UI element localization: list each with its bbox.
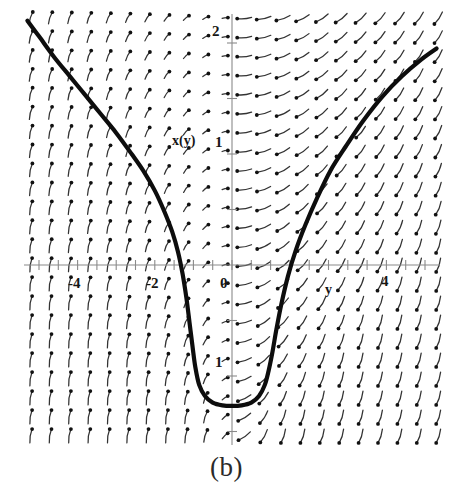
field-arrow-tail-dot [433, 79, 437, 83]
field-arrow-tail-dot [375, 193, 379, 197]
field-arrow-tail-dot [207, 34, 211, 38]
field-arrow-tail-dot [89, 162, 93, 166]
field-arrow-tail-dot [128, 295, 132, 299]
field-arrow [258, 318, 270, 326]
field-arrow-tail-dot [275, 76, 279, 80]
field-arrow [356, 145, 365, 157]
field-arrow [49, 372, 51, 386]
field-arrow [49, 353, 51, 367]
field-arrow [107, 429, 109, 443]
field-arrow-tail-dot [396, 441, 400, 445]
field-arrow-tail-dot [166, 389, 170, 393]
field-arrow [397, 353, 401, 367]
field-arrow [49, 277, 51, 291]
field-arrow [416, 220, 421, 233]
field-arrow-tail-dot [318, 384, 322, 388]
field-arrow-tail-dot [147, 314, 151, 318]
field-arrow-tail-dot [374, 60, 378, 64]
field-arrow [68, 145, 71, 157]
field-arrow-tail-dot [167, 145, 171, 149]
field-arrow-tail-dot [108, 219, 112, 223]
field-arrow-tail-dot [50, 200, 54, 204]
field-arrow [339, 334, 344, 348]
field-arrow-tail-dot [50, 162, 54, 166]
field-arrow-tail-dot [50, 427, 54, 431]
field-arrow [49, 429, 51, 443]
field-arrow-tail-dot [374, 155, 378, 159]
field-arrow-tail-dot [187, 203, 191, 207]
field-arrow-tail-dot [275, 210, 279, 214]
field-arrow-tail-dot [30, 294, 34, 298]
field-arrow-tail-dot [256, 363, 260, 367]
field-arrow [396, 88, 404, 100]
field-arrow-tail-dot [30, 218, 34, 222]
field-arrow-tail-dot [69, 294, 73, 298]
field-arrow [279, 335, 288, 346]
field-arrow-tail-dot [434, 232, 438, 236]
field-arrow-tail-dot [433, 156, 437, 160]
field-arrow-tail-dot [50, 275, 54, 279]
field-arrow [29, 31, 33, 43]
field-arrow-tail-dot [375, 270, 379, 274]
field-arrow [237, 207, 251, 209]
field-arrow-tail-dot [109, 106, 113, 110]
field-arrow [88, 296, 91, 310]
field-arrow-tail-dot [413, 98, 417, 102]
field-arrow [257, 54, 271, 58]
field-arrow-tail-dot [147, 389, 151, 393]
field-arrow [277, 204, 289, 212]
field-arrow-tail-dot [315, 135, 319, 139]
field-arrow-tail-dot [148, 201, 152, 205]
field-arrow-tail-dot [354, 78, 358, 82]
field-arrow [30, 353, 32, 367]
field-arrow [88, 353, 90, 367]
field-arrow-tail-dot [294, 77, 298, 81]
field-arrow [69, 391, 71, 405]
field-arrow-tail-dot [187, 127, 191, 131]
field-arrow-tail-dot [295, 230, 299, 234]
field-arrow [127, 315, 130, 328]
field-arrow-tail-dot [414, 232, 418, 236]
field-arrow [359, 429, 363, 443]
field-arrow [339, 391, 343, 405]
field-arrow-tail-dot [206, 428, 210, 432]
field-arrow [88, 202, 91, 215]
field-arrow [29, 107, 32, 120]
field-arrow-tail-dot [296, 307, 300, 311]
field-arrow [69, 410, 71, 424]
field-arrow-tail-dot [207, 109, 211, 113]
field-arrow-tail-dot [295, 192, 299, 196]
field-arrow [239, 432, 251, 440]
field-arrow [376, 69, 385, 80]
field-arrow-tail-dot [186, 353, 190, 357]
field-arrow-tail-dot [275, 248, 279, 252]
field-arrow [358, 277, 364, 290]
field-arrow [359, 334, 364, 348]
field-arrow-tail-dot [354, 21, 358, 25]
field-arrow [166, 410, 168, 424]
field-arrow [375, 13, 385, 24]
field-arrow [435, 126, 442, 139]
field-arrow-tail-dot [147, 257, 151, 261]
field-arrow-tail-dot [187, 184, 191, 188]
field-arrow-tail-dot [207, 128, 211, 132]
field-arrow-tail-dot [69, 256, 73, 260]
field-arrow-tail-dot [206, 279, 210, 283]
field-arrow-tail-dot [187, 108, 191, 112]
field-arrow [338, 240, 346, 252]
field-arrow-tail-dot [69, 427, 73, 431]
field-arrow-tail-dot [433, 137, 437, 141]
field-arrow [416, 164, 422, 177]
field-arrow-tail-dot [434, 327, 438, 331]
field-arrow [356, 13, 367, 23]
field-arrow [49, 164, 52, 177]
field-arrow-tail-dot [374, 136, 378, 140]
field-arrow-tail-dot [147, 408, 151, 412]
field-arrow [257, 16, 271, 19]
field-arrow [356, 32, 366, 42]
field-arrow-tail-dot [186, 390, 190, 394]
field-arrow-tail-dot [337, 441, 341, 445]
field-arrow-tail-dot [30, 389, 34, 393]
field-arrow-tail-dot [50, 351, 54, 355]
field-arrow-tail-dot [89, 200, 93, 204]
